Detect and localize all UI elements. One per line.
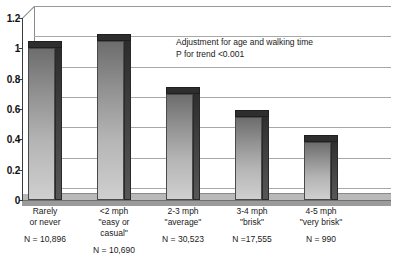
bar-2-top-face bbox=[97, 34, 131, 41]
bar-1 bbox=[28, 41, 62, 200]
y-axis-label-0.8: 0.8 bbox=[0, 73, 20, 84]
bar-1-side-face bbox=[55, 41, 62, 200]
y-axis-label-0: 0 bbox=[0, 195, 20, 206]
gridline-0.4 bbox=[34, 127, 391, 128]
bar-3-side-face bbox=[193, 87, 200, 200]
plot-floor-edge bbox=[22, 200, 391, 201]
sample-size-5: N = 990 bbox=[280, 234, 362, 245]
bar-1-top-face bbox=[28, 41, 62, 48]
bar-5-side-face bbox=[331, 135, 338, 200]
bar-3 bbox=[166, 87, 200, 200]
bar-2 bbox=[97, 34, 131, 200]
bar-4-top-face bbox=[235, 110, 269, 117]
category-label-5-line-1: 4-5 mph bbox=[280, 206, 362, 217]
gridline-0.6 bbox=[34, 97, 391, 98]
category-label-5-line-2: "very brisk" bbox=[280, 217, 362, 228]
bar-5-top-face bbox=[304, 135, 338, 142]
bar-5-front-face bbox=[304, 142, 331, 200]
y-axis-label-0.6: 0.6 bbox=[0, 104, 20, 115]
gridline-1.2 bbox=[34, 6, 391, 7]
bar-1-front-face bbox=[28, 48, 55, 200]
y-axis-label-0.2: 0.2 bbox=[0, 164, 20, 175]
bar-2-side-face bbox=[124, 34, 131, 200]
bar-4-front-face bbox=[235, 117, 262, 200]
y-axis-label-1: 1 bbox=[0, 43, 20, 54]
bar-4-side-face bbox=[262, 110, 269, 200]
y-axis-label-1.2: 1.2 bbox=[0, 13, 20, 24]
annotation-block: Adjustment for age and walking time P fo… bbox=[176, 36, 313, 60]
annotation-line-1: Adjustment for age and walking time bbox=[176, 36, 313, 48]
depth-connector-1.2 bbox=[22, 6, 35, 19]
sample-size-2: N = 10,690 bbox=[73, 245, 155, 256]
bar-chart: 1.210.80.60.40.20 Adjustment for age and… bbox=[0, 0, 395, 268]
category-label-5: 4-5 mph"very brisk"N = 990 bbox=[280, 206, 362, 245]
bar-2-front-face bbox=[97, 41, 124, 200]
annotation-line-2: P for trend <0.001 bbox=[176, 48, 313, 60]
bar-3-top-face bbox=[166, 87, 200, 94]
gridline-0.8 bbox=[34, 67, 391, 68]
y-axis-label-0.4: 0.4 bbox=[0, 134, 20, 145]
bar-3-front-face bbox=[166, 94, 193, 200]
bar-4 bbox=[235, 110, 269, 200]
bar-5 bbox=[304, 135, 338, 200]
